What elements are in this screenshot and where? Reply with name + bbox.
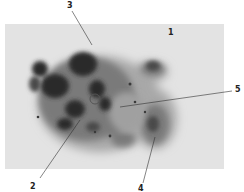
callout-label-2: 2 — [30, 183, 36, 191]
callout-label-3: 3 — [67, 2, 73, 10]
callout-label-4: 4 — [138, 185, 144, 192]
leader-line-5 — [120, 91, 232, 107]
leader-line-3 — [72, 11, 92, 45]
leader-line-2 — [40, 120, 80, 178]
leader-lines — [0, 0, 244, 192]
callout-label-5: 5 — [235, 86, 241, 94]
callout-label-1: 1 — [168, 29, 174, 37]
leader-line-4 — [143, 137, 155, 183]
